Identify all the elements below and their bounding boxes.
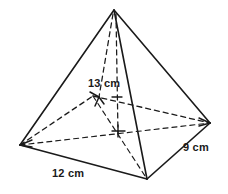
pyramid-figure: 13 cm 12 cm 9 cm — [0, 0, 228, 194]
height-dimension-label: 13 cm — [88, 78, 120, 89]
base-diagonal-left-right — [20, 123, 210, 145]
height-arrowhead-icon — [90, 92, 104, 106]
base-edge-back-right — [93, 96, 210, 123]
base-center-cross-icon — [112, 125, 125, 137]
base-width-dimension-label: 9 cm — [183, 142, 209, 153]
lateral-edge-apex-right — [114, 10, 210, 123]
base-diagonals — [20, 96, 210, 179]
base-length-dimension-label: 12 cm — [52, 168, 84, 179]
visible-edges — [20, 10, 210, 179]
pyramid-drawing — [0, 0, 228, 194]
lateral-edge-apex-front — [114, 10, 147, 179]
